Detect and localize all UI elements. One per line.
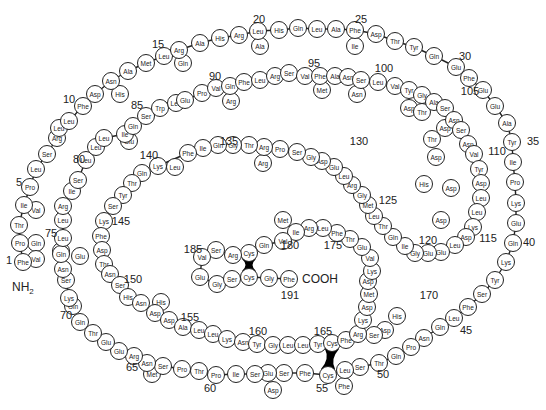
residue: Thr xyxy=(240,136,258,154)
position-label: 175 xyxy=(324,239,342,251)
residue: Pro xyxy=(11,234,29,252)
residue: Arg xyxy=(224,246,242,264)
branch-residue: Leu xyxy=(166,158,184,176)
residue: Ser xyxy=(288,143,306,161)
position-label: 40 xyxy=(523,236,535,248)
residue: Tyr xyxy=(405,38,423,56)
branch-residue: Asp xyxy=(432,211,450,229)
branch-residue: His xyxy=(388,307,406,325)
residue: Lys xyxy=(507,194,525,212)
position-label: 125 xyxy=(379,194,397,206)
branch-residue: Arg xyxy=(254,154,272,172)
residue: Ser xyxy=(223,270,241,288)
position-label: 170 xyxy=(420,289,438,301)
position-label: 85 xyxy=(131,99,143,111)
residue: Thr xyxy=(10,216,28,234)
residue: Leu xyxy=(308,20,326,38)
residue: Ser xyxy=(473,285,491,303)
position-label: 155 xyxy=(181,311,199,323)
residue: Asp xyxy=(367,25,385,43)
residue: Ser xyxy=(69,171,87,189)
position-label: 150 xyxy=(124,273,142,285)
position-label: 70 xyxy=(60,309,72,321)
position-label: 5 xyxy=(16,176,22,188)
residue: Met xyxy=(137,54,155,72)
residue: Phe xyxy=(296,364,314,382)
n-terminus-label: NH2 xyxy=(12,280,34,296)
position-label: 25 xyxy=(355,13,367,25)
residue: Ile xyxy=(15,196,33,214)
residue: Ala xyxy=(498,114,516,132)
residue: Gln xyxy=(289,19,307,37)
position-label: 15 xyxy=(152,38,164,50)
residue: His xyxy=(270,21,288,39)
branch-residue: Asp xyxy=(442,179,460,197)
residue: Gln xyxy=(504,234,522,252)
residue: Leu xyxy=(60,112,78,130)
position-label: 105 xyxy=(461,85,479,97)
residue: Glu xyxy=(486,97,504,115)
n-terminus-subscript: 2 xyxy=(29,287,33,296)
position-label: 75 xyxy=(45,227,57,239)
residue: Ser xyxy=(38,145,56,163)
residue: Pro xyxy=(506,173,524,191)
residue: Ser xyxy=(275,364,293,382)
position-label: 135 xyxy=(220,135,238,147)
residue: Gln xyxy=(71,313,89,331)
position-label: 145 xyxy=(112,215,130,227)
position-label: 65 xyxy=(126,361,138,373)
residue: Ala xyxy=(327,20,345,38)
position-label: 165 xyxy=(314,325,332,337)
residue: Phe xyxy=(14,253,32,271)
residue: Pro xyxy=(271,140,289,158)
position-label: 45 xyxy=(460,324,472,336)
residue: Ser xyxy=(352,71,370,89)
residue: Gln xyxy=(52,245,70,263)
residue: Leu xyxy=(369,73,387,91)
residue: Cys xyxy=(240,268,258,286)
residue: Pro xyxy=(21,178,39,196)
residue: Leu xyxy=(336,361,354,379)
branch-residue: Asp xyxy=(427,148,445,166)
position-label: 180 xyxy=(281,239,299,251)
position-label: 60 xyxy=(204,382,216,394)
c-terminus-label: COOH xyxy=(302,272,338,286)
position-label: 1 xyxy=(6,254,12,266)
residue: Leu xyxy=(27,160,45,178)
position-label: 35 xyxy=(527,135,539,147)
residue: Phe xyxy=(179,144,197,162)
position-label: 191 xyxy=(281,289,299,301)
residue: Phe xyxy=(280,270,298,288)
position-label: 115 xyxy=(479,232,497,244)
residue: Ser xyxy=(246,365,264,383)
branch-residue: Phe xyxy=(335,377,353,395)
residue: Asn xyxy=(102,72,120,90)
residue: Leu xyxy=(95,129,113,147)
branch-residue: Glu xyxy=(71,247,89,265)
position-label: 80 xyxy=(73,153,85,165)
position-label: 90 xyxy=(209,70,221,82)
branch-residue: Ile xyxy=(346,37,364,55)
residue: Thr xyxy=(386,32,404,50)
residue: Glu xyxy=(191,268,209,286)
n-terminus-text: NH xyxy=(12,280,29,294)
position-label: 110 xyxy=(488,145,506,157)
residue: Lys xyxy=(497,253,515,271)
residue: Lys xyxy=(60,289,78,307)
residue: Ala xyxy=(119,62,137,80)
position-label: 140 xyxy=(140,149,158,161)
position-label: 95 xyxy=(308,57,320,69)
position-label: 185 xyxy=(184,243,202,255)
residue: Gln xyxy=(387,347,405,365)
residue: Ile xyxy=(504,153,522,171)
position-label: 120 xyxy=(419,234,437,246)
position-label: 100 xyxy=(375,62,393,74)
branch-residue: Ser xyxy=(365,326,383,344)
residue: Gln xyxy=(425,47,443,65)
residue: Asp xyxy=(86,85,104,103)
position-label: 55 xyxy=(316,382,328,394)
protein-sequence-diagram: ValGlnValHisGlnAlaIleAspThrAspAspHisAspH… xyxy=(0,0,546,410)
position-label: 160 xyxy=(249,325,267,337)
residue: Pro xyxy=(173,360,191,378)
residue: Ile xyxy=(227,365,245,383)
